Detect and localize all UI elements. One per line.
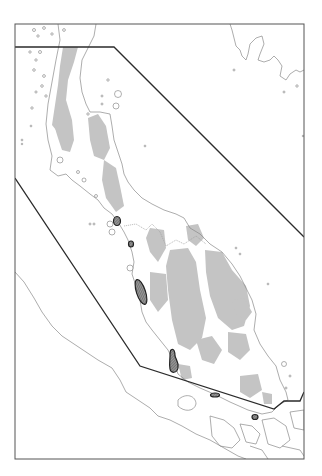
site-6-marker[interactable]	[252, 415, 258, 420]
site-2-marker[interactable]	[129, 241, 134, 247]
map-content	[15, 24, 304, 459]
study-area-boundary	[15, 47, 304, 237]
peninsula-east-coast	[80, 24, 288, 412]
northeast-coast	[230, 24, 304, 80]
site-1-marker[interactable]	[114, 217, 121, 226]
site-5-marker[interactable]	[211, 393, 220, 397]
site-4-marker[interactable]	[170, 349, 179, 372]
map-canvas	[0, 0, 322, 476]
site-3-marker[interactable]	[133, 278, 150, 306]
riau-islands	[178, 396, 304, 459]
